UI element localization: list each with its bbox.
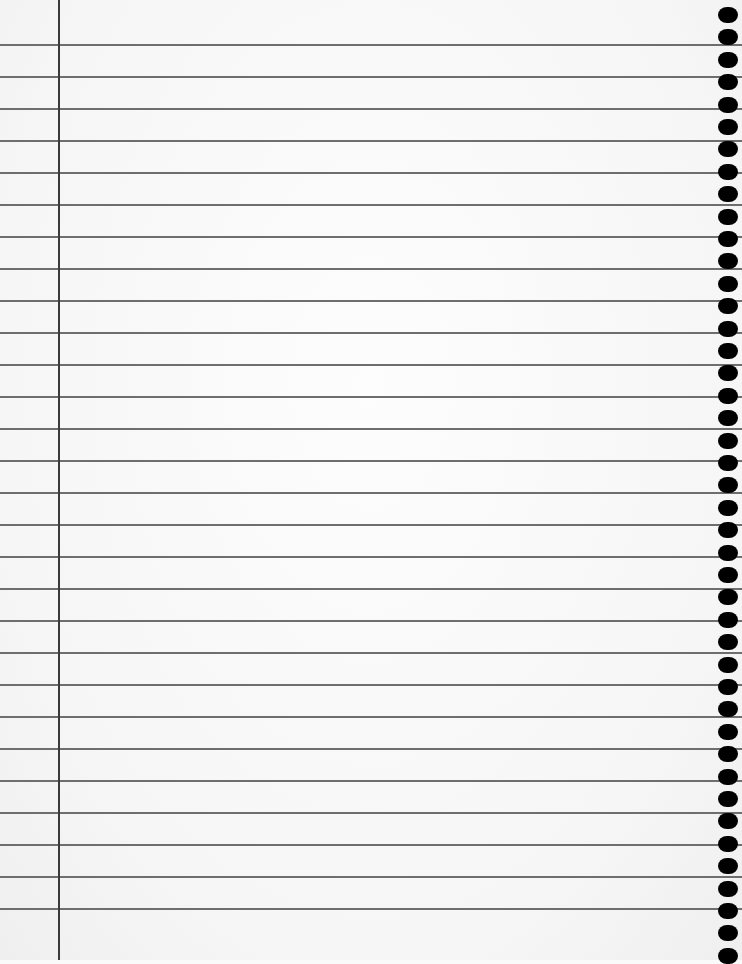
binding-hole — [718, 701, 738, 717]
ruled-line — [0, 204, 742, 206]
binding-hole — [718, 657, 738, 673]
binding-hole — [718, 679, 738, 695]
binding-hole — [718, 522, 738, 538]
ruled-line — [0, 172, 742, 174]
binding-hole — [718, 231, 738, 247]
binding-hole — [718, 52, 738, 68]
binding-hole — [718, 746, 738, 762]
binding-hole — [718, 410, 738, 426]
ruled-line — [0, 460, 742, 462]
ruled-line — [0, 44, 742, 46]
binding-hole — [718, 7, 738, 23]
binding-hole — [718, 455, 738, 471]
ruled-line — [0, 588, 742, 590]
ruled-line — [0, 908, 742, 910]
binding-hole — [718, 948, 738, 964]
ruled-line — [0, 396, 742, 398]
ruled-line — [0, 556, 742, 558]
binding-hole — [718, 612, 738, 628]
binding-hole — [718, 141, 738, 157]
ruled-line — [0, 332, 742, 334]
binding-hole — [718, 343, 738, 359]
ruled-line — [0, 236, 742, 238]
binding-hole — [718, 119, 738, 135]
binding-hole — [718, 388, 738, 404]
ruled-line — [0, 76, 742, 78]
binding-hole — [718, 477, 738, 493]
binding-hole — [718, 164, 738, 180]
ruled-line — [0, 748, 742, 750]
ruled-line — [0, 716, 742, 718]
binding-hole — [718, 276, 738, 292]
binding-hole — [718, 724, 738, 740]
binding-hole — [718, 433, 738, 449]
ruled-line — [0, 620, 742, 622]
ruled-line — [0, 108, 742, 110]
binding-hole — [718, 500, 738, 516]
binding-hole — [718, 298, 738, 314]
ruled-line — [0, 780, 742, 782]
margin-line — [58, 0, 60, 960]
ruled-line — [0, 300, 742, 302]
ruled-line — [0, 364, 742, 366]
binding-hole — [718, 29, 738, 45]
ruled-line — [0, 492, 742, 494]
binding-hole — [718, 791, 738, 807]
binding-hole — [718, 858, 738, 874]
binding-hole — [718, 881, 738, 897]
ruled-line — [0, 844, 742, 846]
ruled-line — [0, 652, 742, 654]
binding-hole — [718, 97, 738, 113]
binding-hole — [718, 545, 738, 561]
ruled-line — [0, 140, 742, 142]
binding-hole — [718, 209, 738, 225]
ruled-line — [0, 524, 742, 526]
binding-hole — [718, 836, 738, 852]
binding-hole — [718, 567, 738, 583]
binding-hole — [718, 253, 738, 269]
binding-hole — [718, 769, 738, 785]
binding-hole — [718, 589, 738, 605]
binding-hole — [718, 365, 738, 381]
binding-hole — [718, 925, 738, 941]
ruled-line — [0, 428, 742, 430]
binding-hole — [718, 634, 738, 650]
binding-hole — [718, 74, 738, 90]
binding-hole — [718, 813, 738, 829]
ruled-line — [0, 812, 742, 814]
binding-hole — [718, 321, 738, 337]
binding-hole — [718, 903, 738, 919]
binding-hole — [718, 186, 738, 202]
ruled-line — [0, 268, 742, 270]
ruled-line — [0, 684, 742, 686]
ruled-line — [0, 876, 742, 878]
